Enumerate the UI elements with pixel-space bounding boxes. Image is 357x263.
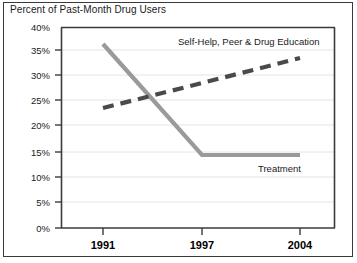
xtick-label-1991: 1991	[91, 239, 115, 251]
series-label-self-help: Self-Help, Peer & Drug Education	[178, 36, 320, 47]
y-axis-labels: 40% 35% 30% 25% 20% 15% 10% 5% 0%	[31, 22, 51, 234]
ytick-label-0: 0%	[36, 223, 50, 234]
plot-area: 40% 35% 30% 25% 20% 15% 10% 5% 0% Self-H…	[0, 0, 357, 263]
x-axis-labels: 1991 1997 2004	[91, 239, 313, 251]
ytick-label-10: 10%	[31, 172, 51, 183]
ytick-label-5: 5%	[36, 197, 50, 208]
ytick-label-20: 20%	[31, 120, 51, 131]
ytick-label-25: 25%	[31, 95, 51, 106]
series-label-treatment: Treatment	[258, 163, 301, 174]
ytick-label-30: 30%	[31, 70, 51, 81]
y-axis-ticks	[55, 50, 61, 228]
ytick-label-35: 35%	[31, 45, 51, 56]
gridlines	[61, 50, 335, 202]
xtick-label-1997: 1997	[190, 239, 214, 251]
xtick-label-2004: 2004	[288, 239, 313, 251]
chart-figure: Percent of Past-Month Drug Users	[0, 0, 357, 263]
x-axis-ticks	[103, 228, 300, 235]
ytick-label-15: 15%	[31, 147, 51, 158]
ytick-label-40: 40%	[31, 22, 51, 33]
plot-frame	[61, 28, 335, 229]
